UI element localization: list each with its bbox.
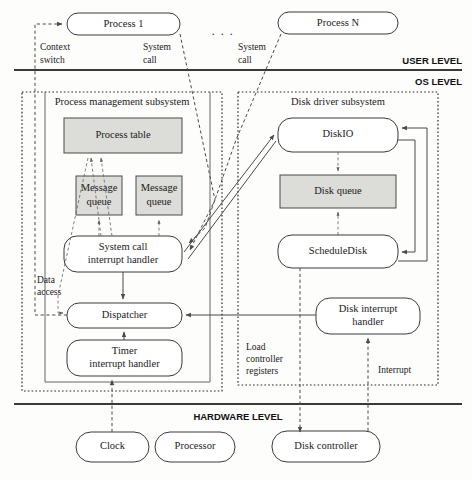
os-architecture-diagram: USER LEVEL OS LEVEL HARDWARE LEVEL Proce…: [0, 0, 472, 480]
edge-label-system-call-right-line2: call: [238, 55, 252, 65]
edge-label-load-controller-line2: controller: [246, 354, 284, 364]
level-label-hardware: HARDWARE LEVEL: [193, 411, 282, 422]
process-management-subsystem-label: Process management subsystem: [55, 96, 190, 107]
message-queue-2-label-line1: Message: [141, 182, 178, 193]
disk-interrupt-handler-label-line1: Disk interrupt: [339, 303, 398, 314]
process-table-label: Process table: [95, 129, 150, 140]
edge-label-data-access-line1: Data: [37, 275, 56, 285]
edge-label-system-call-left-line1: System: [143, 42, 172, 52]
system-call-interrupt-handler-label-line1: System call: [99, 241, 148, 252]
edge-label-load-controller-line3: registers: [246, 366, 278, 376]
process-1-label: Process 1: [104, 18, 144, 29]
schedule-disk-label: ScheduleDisk: [309, 245, 368, 256]
edge-label-data-access-line2: access: [37, 287, 62, 297]
clock-label: Clock: [100, 440, 126, 451]
process-ellipsis: . . .: [212, 24, 235, 38]
process-n-label: Process N: [317, 17, 360, 28]
disk-queue-label: Disk queue: [314, 185, 362, 196]
diagram-canvas: USER LEVEL OS LEVEL HARDWARE LEVEL Proce…: [0, 0, 472, 480]
message-queue-2-label-line2: queue: [146, 196, 171, 207]
message-queue-1-label-line2: queue: [86, 196, 111, 207]
system-call-interrupt-handler-label-line2: interrupt handler: [88, 254, 159, 265]
edge-label-system-call-right-line1: System: [238, 42, 267, 52]
message-queue-1-label-line1: Message: [81, 182, 118, 193]
timer-interrupt-handler-label-line1: Timer: [112, 345, 138, 356]
level-label-user: USER LEVEL: [402, 55, 462, 66]
edge-label-context-switch-line2: switch: [40, 55, 65, 65]
edge-context-switch: [35, 24, 67, 315]
disk-interrupt-handler-label-line2: handler: [352, 316, 384, 327]
edge-syscall-to-diskio-a: [184, 135, 274, 252]
diskio-label: DiskIO: [323, 128, 354, 139]
edge-label-system-call-left-line2: call: [143, 55, 157, 65]
disk-controller-label: Disk controller: [294, 440, 358, 451]
level-label-os: OS LEVEL: [415, 76, 462, 87]
edge-label-context-switch-line1: Context: [40, 42, 70, 52]
edge-diskio-to-schedule-disk: [398, 140, 415, 252]
edge-schedule-disk-to-diskio: [398, 128, 427, 261]
edge-label-interrupt: Interrupt: [378, 365, 412, 375]
timer-interrupt-handler-label-line2: interrupt handler: [89, 358, 160, 369]
edge-label-load-controller-line1: Load: [246, 342, 266, 352]
disk-driver-subsystem-label: Disk driver subsystem: [291, 96, 385, 107]
dispatcher-label: Dispatcher: [102, 309, 148, 320]
edge-system-call-process-n: [189, 34, 281, 243]
processor-label: Processor: [175, 440, 216, 451]
edge-syscall-to-diskio-b: [188, 141, 276, 259]
